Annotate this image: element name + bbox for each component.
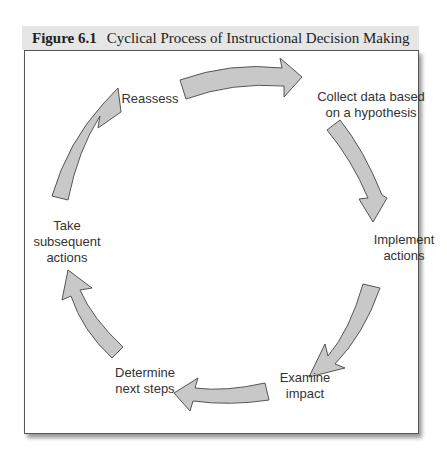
step-take: Take subsequent actions [30,218,104,266]
step-collect-line1: Collect data based [306,89,436,105]
step-implement-line1: Implement [364,232,444,248]
arrow-collect-to-implement [327,120,387,222]
step-examine-line2: impact [270,386,340,402]
step-reassess: Reassess [110,91,190,107]
step-take-line1: Take [30,218,104,234]
arrow-examine-to-determine [174,378,269,411]
step-take-line2: subsequent [30,234,104,250]
step-determine-line2: next steps [105,381,185,397]
arrow-reassess-to-collect [180,58,302,99]
step-collect: Collect data based on a hypothesis [306,89,436,121]
step-determine-line1: Determine [105,365,185,381]
step-take-line3: actions [30,250,104,266]
arrow-implement-to-examine [309,284,380,377]
step-examine-line1: Examine [270,370,340,386]
step-implement: Implement actions [364,232,444,264]
step-examine: Examine impact [270,370,340,402]
step-collect-line2: on a hypothesis [306,105,436,121]
step-implement-line2: actions [364,248,444,264]
step-determine: Determine next steps [105,365,185,397]
step-reassess-line1: Reassess [110,91,190,107]
arrow-determine-to-take [62,270,123,358]
